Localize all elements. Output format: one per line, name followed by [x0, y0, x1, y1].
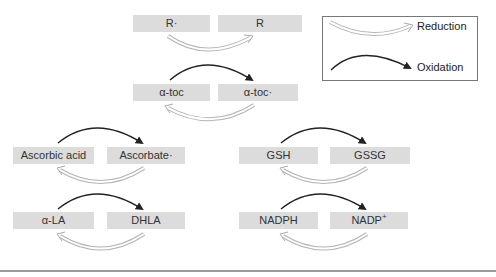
reduction-arrow-nadp — [280, 232, 367, 249]
reduction-arrow-atoc — [165, 104, 254, 119]
node-alpha-toc-radical: α-toc· — [218, 84, 298, 101]
reduction-arrow-dhla — [57, 232, 144, 249]
oxidation-arrow-dhla — [58, 194, 142, 209]
node-alpha-la: α-LA — [13, 212, 94, 229]
node-alpha-toc: α-toc — [133, 84, 210, 101]
nadp-base-text: NADP — [351, 214, 382, 226]
legend-oxidation-label: Oxidation — [417, 61, 463, 73]
node-nadp-plus: NADP+ — [330, 212, 408, 229]
reduction-arrow-ascorbate — [57, 166, 144, 182]
nadp-charge: + — [382, 212, 387, 221]
node-gsh: GSH — [239, 147, 318, 164]
node-r-radical: R· — [133, 15, 210, 32]
reduction-arrow-gssg — [280, 166, 367, 182]
node-dhla: DHLA — [107, 212, 185, 229]
bottom-rule — [0, 270, 496, 272]
node-ascorbic-acid: Ascorbic acid — [13, 147, 94, 164]
reduction-arrow-r — [168, 35, 253, 50]
oxidation-arrow-atoc — [170, 65, 252, 80]
node-gssg: GSSG — [330, 147, 410, 164]
legend-reduction-label: Reduction — [417, 20, 467, 32]
node-r: R — [218, 15, 302, 32]
oxidation-arrow-ascorbate — [58, 128, 142, 143]
node-ascorbate-radical: Ascorbate· — [107, 147, 185, 164]
oxidation-arrow-gssg — [281, 128, 365, 143]
legend-box: Reduction Oxidation — [322, 16, 478, 81]
node-nadph: NADPH — [239, 212, 318, 229]
oxidation-arrow-nadp — [281, 194, 365, 209]
